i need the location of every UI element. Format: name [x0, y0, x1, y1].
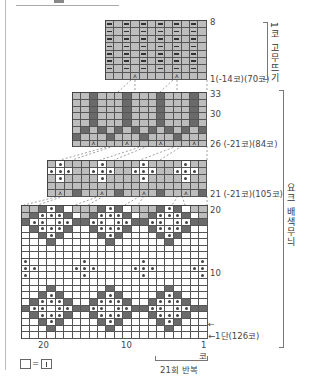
chart-cell [106, 326, 114, 333]
chart-cell [174, 332, 182, 339]
chart-cell [140, 279, 148, 286]
chart-cell [149, 100, 157, 107]
contrast-dot-icon [176, 221, 179, 224]
chart-cell [124, 190, 132, 197]
chart-cell [81, 134, 89, 141]
purl-symbol-icon [141, 60, 146, 62]
chart-cell [30, 213, 38, 220]
chart-cell [165, 252, 173, 259]
chart-cell [131, 28, 139, 35]
chart-cell [149, 127, 157, 134]
chart-cell [165, 286, 173, 293]
chart-cell [81, 113, 89, 120]
chart-cell [98, 226, 106, 233]
chart-cell [106, 206, 114, 213]
chart-cell [132, 219, 140, 226]
chart-cell [149, 213, 157, 220]
chart-cell [39, 252, 47, 259]
chart-cell [182, 206, 190, 213]
chart-cell [140, 266, 148, 273]
chart-cell [190, 120, 198, 127]
chart-cell [107, 134, 115, 141]
chart-cell [149, 312, 157, 319]
chart-cell [148, 65, 156, 72]
chart-cell [191, 246, 199, 253]
chart-cell [22, 332, 30, 339]
contrast-dot-icon [159, 227, 162, 230]
chart-cell [90, 113, 98, 120]
chart-cell [47, 239, 55, 246]
chart-cell [98, 175, 106, 182]
chart-cell [174, 107, 182, 114]
contrast-dot-icon [50, 214, 53, 217]
chart-cell [123, 292, 131, 299]
contrast-dot-icon [66, 221, 69, 224]
chart-cell [106, 266, 114, 273]
chart-cell [56, 206, 64, 213]
chart-cell [173, 21, 181, 28]
contrast-dot-icon [59, 177, 62, 180]
chart-cell [107, 141, 115, 148]
chart-cell [115, 319, 123, 326]
chart-cell [199, 175, 207, 182]
chart-cell [140, 226, 148, 233]
chart-cell [22, 292, 30, 299]
chart-cell [124, 183, 132, 190]
chart-cell [64, 319, 72, 326]
chart-cell [47, 292, 55, 299]
chart-cell [123, 28, 131, 35]
chart-cell [199, 326, 207, 333]
chart-cell [39, 206, 47, 213]
chart-cell [81, 239, 89, 246]
chart-cell [199, 183, 207, 190]
chart-cell [173, 36, 181, 43]
contrast-dot-icon [201, 267, 204, 270]
chart-cell [48, 175, 56, 182]
decrease-symbol-icon: ⋏ [173, 73, 180, 79]
contrast-dot-icon [41, 221, 44, 224]
chart-cell [140, 65, 148, 72]
chart-cell [140, 58, 148, 65]
chart-cell [56, 299, 64, 306]
chart-cell [81, 326, 89, 333]
chart-cell [106, 279, 114, 286]
chart-cell [132, 120, 140, 127]
chart-cell [81, 319, 89, 326]
purl-symbol-icon [141, 53, 146, 55]
chart-cell [190, 127, 198, 134]
chart-cell [81, 266, 89, 273]
chart-cell [165, 306, 173, 313]
chart-cell [73, 312, 81, 319]
chart-cell [98, 312, 106, 319]
chart-cell [148, 51, 156, 58]
chart-cell [123, 107, 131, 114]
chart-cell [98, 213, 106, 220]
chart-cell [132, 168, 140, 175]
chart-cell [174, 226, 182, 233]
chart-cell [56, 326, 64, 333]
chart-cell [182, 134, 190, 141]
chart-cell [165, 239, 173, 246]
chart-cell [199, 127, 207, 134]
chart-cell [81, 219, 89, 226]
chart-cell [39, 246, 47, 253]
chart-cell [165, 141, 173, 148]
chart-cell [98, 100, 106, 107]
purl-symbol-icon [191, 23, 196, 25]
chart-cell [114, 58, 122, 65]
contrast-dot-icon [117, 214, 120, 217]
chart-cell: ⋏ [173, 73, 181, 80]
chart-cell [132, 319, 140, 326]
chart-cell [157, 286, 165, 293]
contrast-dot-icon [100, 300, 103, 303]
chart-cell [140, 107, 148, 114]
chart-cell [140, 326, 148, 333]
chart-cell [199, 161, 207, 168]
chart-cell [182, 161, 190, 168]
chart-cell [47, 213, 55, 220]
contrast-dot-icon [100, 214, 103, 217]
chart-cell [22, 266, 30, 273]
chart-cell [106, 226, 114, 233]
chart-cell [132, 259, 140, 266]
chart-cell [81, 279, 89, 286]
